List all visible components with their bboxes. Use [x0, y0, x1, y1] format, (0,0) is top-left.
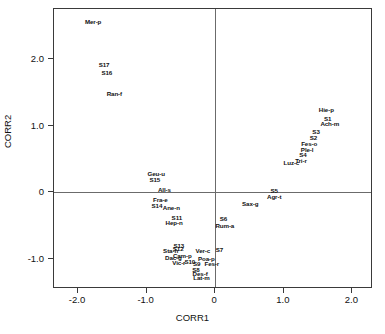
x-tick-mark: [146, 288, 147, 293]
data-point-label: Tri-r: [295, 158, 307, 164]
y-tick-mark: [48, 58, 53, 59]
x-tick-mark: [214, 288, 215, 293]
data-point-label: Ple-l: [301, 147, 314, 153]
data-point-label: Rum-a: [215, 223, 234, 229]
data-point-label: S17: [99, 62, 110, 68]
zero-line-horizontal: [54, 192, 371, 193]
y-tick-label: 0: [39, 186, 44, 197]
data-point-label: S7: [216, 247, 223, 253]
x-tick-mark: [351, 288, 352, 293]
y-tick-label: 2.0: [31, 53, 44, 64]
data-point-label: Hie-p: [319, 107, 334, 113]
data-point-label: All-s: [158, 187, 171, 193]
y-tick-mark: [48, 258, 53, 259]
x-tick-mark: [77, 288, 78, 293]
data-point-label: Mer-p: [85, 19, 101, 25]
data-point-label: S15: [149, 177, 160, 183]
data-point-label: Agr-t: [267, 194, 281, 200]
x-tick-label: -1.0: [137, 294, 153, 305]
x-tick-label: 2.0: [345, 294, 358, 305]
x-tick-label: 1.0: [276, 294, 289, 305]
y-tick-label: -1.0: [28, 253, 44, 264]
y-tick-mark: [48, 191, 53, 192]
x-tick-mark: [283, 288, 284, 293]
scatter-plot: Mer-pS17S16Ran-fGeu-uS15All-sFra-eS14Ane…: [0, 0, 385, 334]
y-tick-mark: [48, 125, 53, 126]
data-point-label: Fes-o: [301, 141, 317, 147]
x-tick-label: -2.0: [69, 294, 85, 305]
data-point-label: S3: [312, 129, 319, 135]
data-point-label: S6: [220, 216, 227, 222]
data-point-label: S16: [101, 70, 112, 76]
data-point-label: Ach-m: [320, 121, 339, 127]
x-tick-label: 0: [212, 294, 217, 305]
data-point-label: Ran-f: [107, 91, 122, 97]
y-axis-title: CORR2: [2, 115, 13, 148]
data-point-label: Hep-n: [166, 220, 183, 226]
data-point-label: Sax-g: [242, 201, 258, 207]
y-tick-label: 1.0: [31, 119, 44, 130]
data-point-label: Vic-r: [172, 260, 185, 266]
data-point-label: S2: [310, 135, 317, 141]
data-point-label: Ver-c: [196, 248, 211, 254]
data-point-label: S14: [152, 203, 163, 209]
x-axis-title: CORR1: [0, 312, 385, 323]
data-point-label: Ane-n: [163, 205, 180, 211]
data-point-label: Fes-r: [204, 261, 219, 267]
data-point-label: Lat-m: [193, 275, 209, 281]
plot-frame: Mer-pS17S16Ran-fGeu-uS15All-sFra-eS14Ane…: [53, 8, 372, 288]
data-point-label: S1: [324, 116, 331, 122]
